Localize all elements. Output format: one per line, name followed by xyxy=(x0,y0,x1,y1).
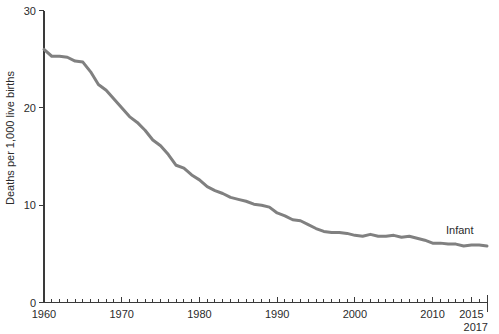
x-tick-label: 1970 xyxy=(109,308,133,320)
y-tick-label: 10 xyxy=(24,199,36,211)
x-tick-label: 2000 xyxy=(343,308,367,320)
series-inline-labels: Infant xyxy=(446,224,474,236)
x-end-tick-label: 2017 xyxy=(464,321,488,333)
x-tick-label: 1990 xyxy=(265,308,289,320)
y-tick-label: 20 xyxy=(24,102,36,114)
series-label-infant: Infant xyxy=(446,224,474,236)
y-axis-title: Deaths per 1,000 live births xyxy=(4,71,16,205)
tick-marks xyxy=(39,11,487,312)
x-tick-label: 2010 xyxy=(420,308,444,320)
chart-canvas: 0102030 19601970198019902000201020152017… xyxy=(0,0,499,334)
axes xyxy=(44,11,487,303)
axis-lines xyxy=(44,11,487,303)
x-tick-label: 1980 xyxy=(187,308,211,320)
x-tick-label: 1960 xyxy=(32,308,56,320)
y-tick-label: 30 xyxy=(24,5,36,17)
infant-mortality-chart: 0102030 19601970198019902000201020152017… xyxy=(0,0,499,334)
y-tick-labels: 0102030 xyxy=(24,5,36,309)
x-tick-labels: 19601970198019902000201020152017 xyxy=(32,308,488,333)
x-tick-label: 2015 xyxy=(459,308,483,320)
data-series xyxy=(44,49,487,246)
plot-area: 0102030 19601970198019902000201020152017… xyxy=(4,5,488,333)
series-line-infant xyxy=(44,49,487,246)
